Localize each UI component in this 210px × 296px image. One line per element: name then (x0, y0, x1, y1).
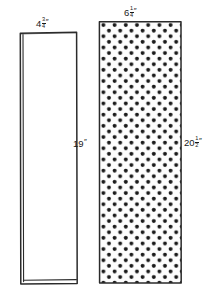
dotted-width-inch-mark: ″ (134, 6, 137, 15)
diagram-canvas (0, 0, 210, 296)
plain-panel-left-inner-line (23, 35, 24, 282)
plain-height-whole: 19 (73, 138, 84, 149)
dotted-panel-width-label: 614″ (124, 6, 137, 18)
dotted-height-whole: 20 (184, 137, 195, 148)
dotted-panel (96, 19, 186, 287)
plain-panel-fill (21, 33, 78, 284)
polka-dot-print (96, 19, 186, 287)
dotted-width-fraction: 14 (130, 6, 134, 18)
plain-panel-bottom-inner-line (23, 280, 76, 281)
pattern-diagram: 434″ 614″ 19″ 2012″ (0, 0, 210, 296)
dotted-width-denominator: 4 (130, 13, 134, 19)
plain-width-denominator: 4 (42, 24, 46, 30)
plain-width-fraction: 34 (42, 17, 46, 29)
plain-width-whole: 4 (36, 18, 41, 29)
dotted-height-inch-mark: ″ (199, 136, 202, 145)
plain-panel (20, 32, 77, 284)
plain-panel-width-label: 434″ (36, 17, 49, 29)
dotted-width-whole: 6 (124, 7, 129, 18)
dotted-panel-height-label: 2012″ (184, 136, 202, 148)
plain-width-inch-mark: ″ (46, 17, 49, 26)
plain-panel-height-label: 19″ (73, 138, 87, 149)
plain-height-inch-mark: ″ (84, 137, 87, 146)
